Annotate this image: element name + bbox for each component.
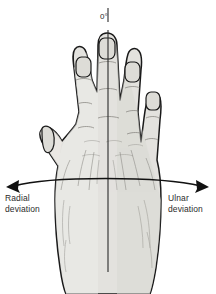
arrow-right-icon <box>195 180 209 193</box>
ulnar-deviation-label-line2: deviation <box>168 204 203 215</box>
ulnar-deviation-label-line1: Ulnar <box>168 193 203 204</box>
arrow-left-icon <box>6 180 20 193</box>
hand-dorsal-view <box>0 0 216 294</box>
radial-deviation-label: Radial deviation <box>5 193 40 214</box>
figure-root: 0° Radial deviation Ulnar deviation <box>0 0 216 294</box>
nail-thumb <box>42 126 54 152</box>
nail-index <box>76 57 91 77</box>
ulnar-deviation-label: Ulnar deviation <box>168 193 203 214</box>
radial-deviation-label-line1: Radial <box>5 193 40 204</box>
nail-little <box>146 92 160 110</box>
nail-middle <box>99 38 115 59</box>
radial-deviation-label-line2: deviation <box>5 204 40 215</box>
zero-degree-label: 0° <box>100 12 108 21</box>
nail-ring <box>125 62 140 82</box>
